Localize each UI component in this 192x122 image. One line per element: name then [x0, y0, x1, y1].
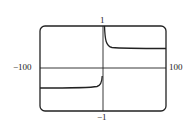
curve-left-branch	[40, 76, 102, 88]
y-max-tick-label: 1	[100, 16, 105, 25]
curve-right-branch	[105, 26, 167, 49]
plot-canvas	[0, 0, 192, 122]
x-min-tick-label: −100	[13, 63, 32, 72]
x-max-tick-label: 100	[169, 63, 183, 72]
y-min-tick-label: −1	[97, 113, 107, 122]
